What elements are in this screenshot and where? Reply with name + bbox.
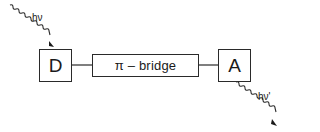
pi-bridge-box: π – bridge bbox=[92, 54, 199, 77]
donor-box: D bbox=[39, 49, 72, 82]
acceptor-box: A bbox=[218, 49, 251, 82]
donor-label: D bbox=[49, 56, 63, 75]
incoming-photon-label: hν bbox=[32, 13, 43, 23]
outgoing-photon-arrow-icon bbox=[236, 82, 277, 126]
acceptor-label: A bbox=[228, 56, 241, 75]
pi-bridge-label: π – bridge bbox=[115, 59, 177, 72]
outgoing-photon-label: hν' bbox=[258, 92, 270, 102]
